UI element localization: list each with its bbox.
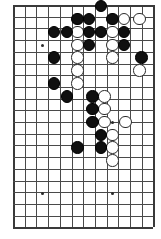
star-point [41, 192, 44, 195]
grid-line-horizontal [13, 110, 153, 111]
black-stone[interactable] [61, 26, 74, 39]
black-stone[interactable] [95, 141, 108, 154]
grid-line-horizontal [13, 87, 153, 88]
grid-line-horizontal [13, 157, 153, 158]
white-stone[interactable] [119, 116, 132, 129]
white-stone[interactable] [106, 39, 119, 52]
white-stone[interactable] [71, 51, 84, 64]
grid-line-vertical [48, 5, 49, 227]
black-stone[interactable] [86, 116, 99, 129]
grid-line-horizontal [13, 181, 153, 182]
grid-line-horizontal [13, 204, 153, 205]
black-stone[interactable] [135, 51, 148, 64]
black-stone[interactable] [95, 129, 108, 142]
white-stone[interactable] [98, 116, 111, 129]
grid-line-horizontal [13, 75, 153, 76]
grid-line-horizontal [13, 192, 153, 193]
black-stone[interactable] [48, 51, 61, 64]
grid-line-vertical [72, 5, 73, 227]
black-stone[interactable] [106, 13, 119, 26]
grid-line-horizontal [13, 99, 153, 100]
white-stone[interactable] [71, 64, 84, 77]
go-board-figure [0, 0, 161, 239]
white-stone[interactable] [133, 13, 146, 26]
black-stone[interactable] [118, 26, 131, 39]
grid-line-vertical [25, 5, 26, 227]
grid-line-horizontal [13, 122, 153, 123]
grid-line-vertical [83, 5, 84, 227]
grid-line-horizontal [13, 134, 153, 135]
black-stone[interactable] [118, 39, 131, 52]
black-stone[interactable] [61, 90, 74, 103]
grid-line-vertical [153, 5, 155, 227]
grid-line-horizontal [13, 5, 153, 7]
black-stone[interactable] [95, 0, 108, 12]
black-stone[interactable] [83, 39, 96, 52]
grid-line-vertical [142, 5, 143, 227]
white-stone[interactable] [71, 77, 84, 90]
black-stone[interactable] [86, 90, 99, 103]
white-stone[interactable] [106, 154, 119, 167]
white-stone[interactable] [106, 141, 119, 154]
grid-line-vertical [118, 5, 119, 227]
grid-line-horizontal [13, 52, 153, 53]
grid-line-vertical [36, 5, 37, 227]
black-stone[interactable] [48, 26, 61, 39]
black-stone[interactable] [71, 141, 84, 154]
black-stone[interactable] [83, 13, 96, 26]
grid-line-horizontal [13, 169, 153, 170]
black-stone[interactable] [71, 13, 84, 26]
star-point [41, 44, 44, 47]
white-stone[interactable] [133, 64, 146, 77]
white-stone[interactable] [98, 90, 111, 103]
star-point [111, 192, 114, 195]
grid-line-vertical [130, 5, 131, 227]
star-point [111, 121, 114, 124]
black-stone[interactable] [48, 77, 61, 90]
grid-line-horizontal [13, 216, 153, 217]
white-stone[interactable] [71, 39, 84, 52]
grid-line-horizontal [13, 64, 153, 65]
grid-line-vertical [60, 5, 61, 227]
white-stone[interactable] [106, 51, 119, 64]
black-stone[interactable] [95, 26, 108, 39]
white-stone[interactable] [98, 103, 111, 116]
black-stone[interactable] [86, 103, 99, 116]
grid-line-vertical [13, 5, 15, 227]
white-stone[interactable] [118, 13, 131, 26]
go-board[interactable] [0, 0, 161, 239]
black-stone[interactable] [83, 26, 96, 39]
white-stone[interactable] [106, 129, 119, 142]
grid-line-horizontal [13, 227, 153, 229]
white-stone[interactable] [106, 26, 119, 39]
